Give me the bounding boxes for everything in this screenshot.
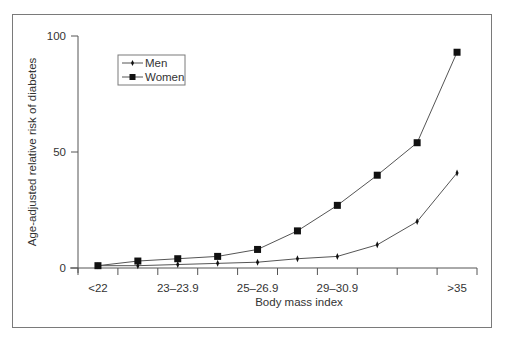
diamond-marker-icon (296, 255, 299, 262)
diamond-marker-icon (456, 169, 459, 176)
diamond-marker-icon (256, 259, 259, 266)
square-marker-icon (294, 227, 301, 234)
square-marker-icon (454, 49, 461, 56)
diamond-marker-icon (216, 260, 219, 267)
diamond-marker-icon (376, 241, 379, 248)
x-axis-label: Body mass index (255, 296, 343, 308)
line-chart: 050100<2223–23.925–26.929–30.9>35 Age-ad… (0, 0, 506, 340)
diamond-marker-icon (336, 253, 339, 260)
series-line (98, 173, 457, 266)
legend: Men Women (118, 55, 185, 85)
square-marker-icon (414, 139, 421, 146)
legend-label-men: Men (145, 57, 167, 69)
square-marker-icon (254, 246, 261, 253)
legend-label-women: Women (145, 71, 184, 83)
y-tick-label: 0 (60, 262, 66, 274)
square-marker-icon (130, 74, 136, 80)
x-tick-label: 25–26.9 (237, 282, 279, 294)
series-men (96, 169, 458, 269)
x-tick-label: 23–23.9 (157, 282, 199, 294)
square-marker-icon (374, 172, 381, 179)
square-marker-icon (134, 258, 141, 265)
x-tick-label: <22 (88, 282, 108, 294)
diamond-marker-icon (416, 218, 419, 225)
x-tick-label: 29–30.9 (317, 282, 359, 294)
square-marker-icon (174, 255, 181, 262)
axes: 050100<2223–23.925–26.929–30.9>35 (47, 30, 477, 294)
square-marker-icon (334, 202, 341, 209)
x-tick-label: >35 (447, 282, 467, 294)
y-tick-label: 50 (53, 146, 66, 158)
square-marker-icon (214, 253, 221, 260)
y-axis-label: Age-adjusted relative risk of diabetes (26, 57, 38, 246)
y-tick-label: 100 (47, 30, 66, 42)
square-marker-icon (94, 262, 101, 269)
